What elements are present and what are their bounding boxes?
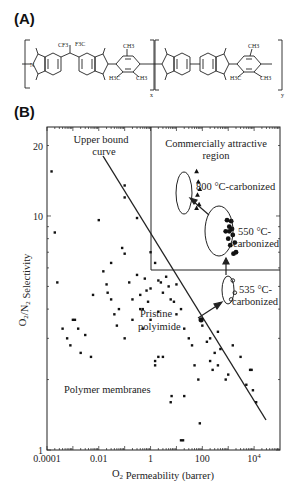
arrowhead-icon — [223, 258, 229, 264]
scatter-chart: 0.00010.011100104 11020 Upper bound curv… — [0, 0, 297, 493]
label-upper-bound-2: curve — [92, 146, 116, 157]
label-commercial-2: region — [203, 150, 231, 161]
label-800c: 800 °C-carbonized — [196, 181, 276, 192]
y-tick-label: 20 — [33, 141, 43, 152]
label-pristine-2: polyimide — [138, 321, 181, 332]
label-pristine-1: Pristine — [140, 308, 172, 319]
arrowhead-icon — [214, 302, 222, 309]
y-tick-labels: 11020 — [33, 141, 43, 456]
y-axis-title: O2/N2 Selectivity — [17, 253, 32, 326]
label-550c-1: 550 °C- — [238, 226, 272, 237]
label-polymer-membranes: Polymer membranes — [64, 384, 151, 395]
ellipse-800c — [176, 172, 192, 214]
y-tick-label: 10 — [33, 211, 43, 222]
x-axis-title: O2 Permeability (barrer) — [112, 468, 215, 482]
label-upper-bound-1: Upper bound — [73, 134, 129, 145]
x-tick-label: 1 — [148, 453, 153, 464]
y-tick-label: 1 — [38, 445, 43, 456]
x-tick-label: 0.01 — [90, 453, 108, 464]
label-535c-1: 535 °C- — [239, 284, 273, 295]
arrow-pristine-to-535 — [198, 305, 218, 318]
label-commercial-1: Commercially attractive — [165, 138, 267, 149]
x-tick-labels: 0.00010.011100104 — [33, 452, 261, 464]
label-550c-2: carbonized — [233, 238, 280, 249]
x-tick-label: 100 — [195, 453, 210, 464]
x-tick-label: 104 — [247, 452, 261, 464]
label-535c-2: carbonized — [232, 296, 279, 307]
